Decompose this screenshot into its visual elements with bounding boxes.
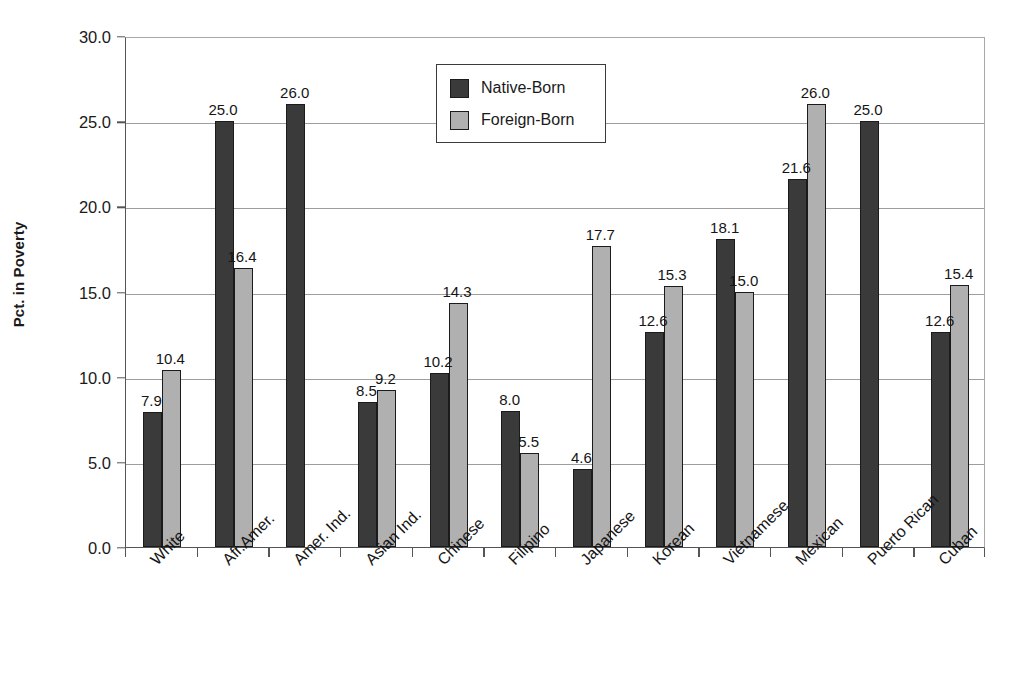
y-axis: 0.05.010.015.020.025.030.0 bbox=[0, 0, 125, 676]
caption-remnant bbox=[0, 658, 1016, 668]
bar-native-born[interactable] bbox=[573, 469, 592, 547]
gridline bbox=[126, 294, 984, 295]
bar-value-label: 12.6 bbox=[917, 312, 963, 329]
bar-foreign-born[interactable] bbox=[735, 292, 754, 548]
legend: Native-Born Foreign-Born bbox=[436, 64, 606, 143]
x-tick-mark bbox=[125, 548, 126, 557]
bar-value-label: 10.4 bbox=[147, 350, 193, 367]
bar-native-born[interactable] bbox=[358, 402, 377, 547]
x-tick-mark bbox=[842, 548, 843, 557]
bar-value-label: 5.5 bbox=[506, 433, 552, 450]
bar-native-born[interactable] bbox=[143, 412, 162, 547]
legend-label-foreign-born: Foreign-Born bbox=[481, 111, 574, 129]
bar-value-label: 9.2 bbox=[362, 370, 408, 387]
bar-native-born[interactable] bbox=[931, 332, 950, 547]
y-tick-label: 15.0 bbox=[51, 283, 111, 302]
bar-native-born[interactable] bbox=[286, 104, 305, 547]
x-tick-mark bbox=[483, 548, 484, 557]
bar-value-label: 26.0 bbox=[272, 84, 318, 101]
y-tick-label: 20.0 bbox=[51, 198, 111, 217]
x-tick-mark bbox=[197, 548, 198, 557]
legend-item-native-born[interactable]: Native-Born bbox=[450, 72, 605, 104]
bar-foreign-born[interactable] bbox=[449, 303, 468, 547]
x-tick-mark bbox=[412, 548, 413, 557]
bar-value-label: 18.1 bbox=[702, 219, 748, 236]
bar-value-label: 12.6 bbox=[630, 312, 676, 329]
y-tick-mark bbox=[117, 462, 125, 463]
x-tick-mark bbox=[555, 548, 556, 557]
y-tick-label: 25.0 bbox=[51, 113, 111, 132]
legend-label-native-born: Native-Born bbox=[481, 79, 565, 97]
x-tick-mark bbox=[340, 548, 341, 557]
y-tick-label: 30.0 bbox=[51, 28, 111, 47]
x-tick-mark bbox=[770, 548, 771, 557]
x-tick-mark bbox=[627, 548, 628, 557]
bar-native-born[interactable] bbox=[788, 179, 807, 547]
bar-value-label: 26.0 bbox=[792, 84, 838, 101]
bar-value-label: 10.2 bbox=[415, 353, 461, 370]
bar-value-label: 25.0 bbox=[200, 101, 246, 118]
bar-value-label: 16.4 bbox=[219, 248, 265, 265]
bar-foreign-born[interactable] bbox=[234, 268, 253, 547]
bar-value-label: 17.7 bbox=[577, 226, 623, 243]
legend-swatch-foreign-born-icon bbox=[450, 111, 469, 130]
bar-value-label: 8.0 bbox=[487, 391, 533, 408]
bar-value-label: 15.0 bbox=[721, 272, 767, 289]
y-tick-mark bbox=[117, 121, 125, 122]
bar-value-label: 15.4 bbox=[936, 265, 982, 282]
bar-value-label: 21.6 bbox=[773, 159, 819, 176]
y-tick-mark bbox=[117, 547, 125, 548]
legend-swatch-native-born-icon bbox=[450, 79, 469, 98]
bar-value-label: 4.6 bbox=[558, 449, 604, 466]
y-tick-mark bbox=[117, 377, 125, 378]
y-tick-label: 5.0 bbox=[51, 453, 111, 472]
bar-value-label: 14.3 bbox=[434, 283, 480, 300]
bar-native-born[interactable] bbox=[645, 332, 664, 547]
y-tick-mark bbox=[117, 292, 125, 293]
bar-native-born[interactable] bbox=[860, 121, 879, 547]
x-tick-mark bbox=[984, 548, 985, 557]
x-tick-mark bbox=[268, 548, 269, 557]
y-tick-label: 0.0 bbox=[51, 539, 111, 558]
poverty-bar-chart: Pct. in Poverty 0.05.010.015.020.025.030… bbox=[0, 0, 1016, 676]
bar-native-born[interactable] bbox=[430, 373, 449, 547]
x-tick-mark bbox=[913, 548, 914, 557]
y-tick-label: 10.0 bbox=[51, 368, 111, 387]
gridline bbox=[126, 208, 984, 209]
y-tick-mark bbox=[117, 207, 125, 208]
bar-native-born[interactable] bbox=[215, 121, 234, 547]
bar-foreign-born[interactable] bbox=[592, 246, 611, 547]
legend-item-foreign-born[interactable]: Foreign-Born bbox=[450, 104, 605, 136]
bar-value-label: 15.3 bbox=[649, 266, 695, 283]
gridline bbox=[126, 464, 984, 465]
bar-native-born[interactable] bbox=[501, 411, 520, 547]
bar-value-label: 25.0 bbox=[845, 101, 891, 118]
x-tick-mark bbox=[698, 548, 699, 557]
y-tick-mark bbox=[117, 36, 125, 37]
bar-value-label: 7.9 bbox=[128, 392, 174, 409]
gridline bbox=[126, 379, 984, 380]
